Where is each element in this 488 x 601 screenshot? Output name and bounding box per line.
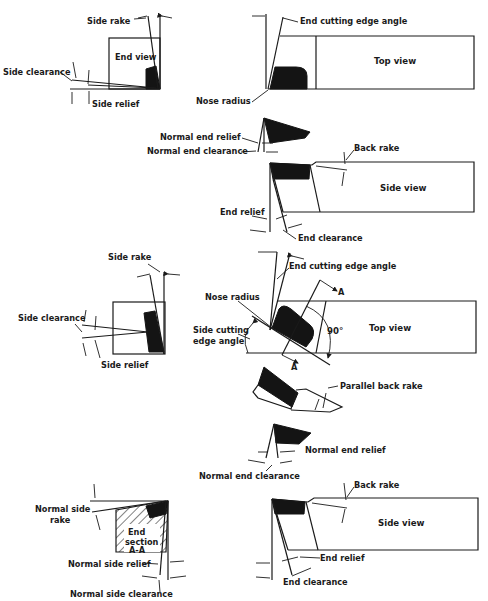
label-end-relief: End relief bbox=[220, 207, 265, 217]
label-nose-radius-2: Nose radius bbox=[205, 292, 260, 302]
lower-end-section: End section A-A Normal side rake Normal … bbox=[35, 484, 186, 599]
lower-parallel-section: Parallel back rake bbox=[253, 367, 423, 412]
side-view-title-2: Side view bbox=[378, 518, 424, 528]
label-normal-end-relief: Normal end relief bbox=[160, 132, 241, 142]
label-side-rake: Side rake bbox=[87, 16, 131, 26]
lower-top-view: 90° A A Top view End cutting edge angle … bbox=[193, 252, 476, 372]
label-end-cutting-edge-angle-2: End cutting edge angle bbox=[289, 261, 397, 271]
label-normal-end-relief-2: Normal end relief bbox=[305, 445, 386, 455]
label-normal-side-relief: Normal side relief bbox=[68, 559, 151, 569]
nose-tip-fill bbox=[270, 67, 307, 89]
label-normal-end-clearance: Normal end clearance bbox=[147, 146, 248, 156]
lower-side-view: Back rake Side view End relief End clear… bbox=[256, 480, 478, 587]
label-normal-side-rake-line1: Normal side bbox=[35, 504, 91, 514]
label-side-cutting-edge-angle-line2: edge angle bbox=[193, 336, 245, 346]
label-side-relief: Side relief bbox=[92, 99, 140, 109]
lower-end-view: Side rake Side clearance Side relief bbox=[18, 252, 180, 370]
label-side-cutting-edge-angle-line1: Side cutting bbox=[193, 325, 249, 335]
side-view-tip-fill bbox=[270, 163, 310, 179]
label-side-rake-2: Side rake bbox=[108, 252, 152, 262]
side-view-title: Side view bbox=[380, 183, 426, 193]
end-section-title-line3: A-A bbox=[129, 545, 146, 555]
end-section-title-line1: End bbox=[128, 527, 145, 537]
lower-normal-section: Normal end relief Normal end clearance bbox=[199, 424, 386, 481]
label-parallel-back-rake: Parallel back rake bbox=[340, 381, 423, 391]
label-end-cutting-edge-angle: End cutting edge angle bbox=[300, 16, 408, 26]
tool-angle-diagram: Side rake End view Side clearance Side r… bbox=[0, 0, 488, 601]
end-view-title: End view bbox=[115, 52, 157, 62]
label-end-clearance: End clearance bbox=[298, 233, 363, 243]
label-end-relief-2: End relief bbox=[320, 553, 365, 563]
label-side-clearance: Side clearance bbox=[3, 67, 71, 77]
angle-90: 90° bbox=[327, 326, 343, 336]
label-normal-side-rake-line2: rake bbox=[50, 515, 71, 525]
nose-tip-fill-2 bbox=[272, 306, 314, 347]
label-side-relief-2: Side relief bbox=[101, 360, 149, 370]
label-nose-radius: Nose radius bbox=[196, 96, 251, 106]
upper-normal-section: Normal end relief Normal end clearance bbox=[147, 118, 310, 156]
upper-side-view: Back rake Side view End relief End clear… bbox=[220, 143, 474, 243]
parallel-section-fill bbox=[258, 367, 298, 407]
upper-end-view: Side rake End view Side clearance Side r… bbox=[3, 14, 172, 109]
label-end-clearance-2: End clearance bbox=[283, 577, 348, 587]
normal-section-fill-2 bbox=[274, 424, 311, 444]
label-back-rake-2: Back rake bbox=[354, 480, 400, 490]
side-view-tip-fill-2 bbox=[272, 499, 305, 514]
upper-top-view: End cutting edge angle Top view Nose rad… bbox=[196, 14, 474, 106]
label-normal-side-clearance: Normal side clearance bbox=[70, 589, 173, 599]
top-view-title-2: Top view bbox=[369, 323, 411, 333]
section-marker-a-bottom: A bbox=[291, 362, 298, 372]
section-marker-a-top: A bbox=[338, 287, 345, 297]
top-view-title: Top view bbox=[374, 56, 416, 66]
label-back-rake: Back rake bbox=[354, 143, 400, 153]
normal-section-fill bbox=[264, 118, 310, 143]
label-normal-end-clearance-2: Normal end clearance bbox=[199, 471, 300, 481]
label-side-clearance-2: Side clearance bbox=[18, 313, 86, 323]
